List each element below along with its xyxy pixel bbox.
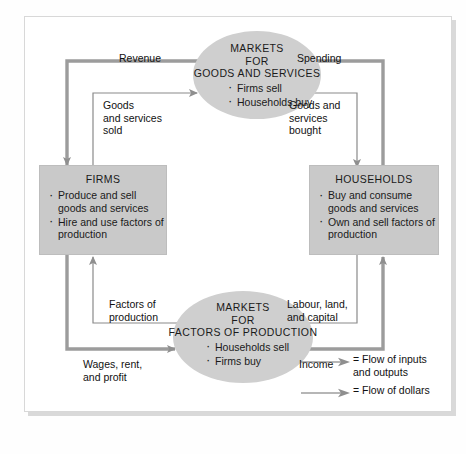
node-bullet: Own and sell factors of production (318, 216, 438, 241)
node-title-line: GOODS AND SERVICES (179, 67, 335, 80)
node-title-line: FACTORS OF PRODUCTION (151, 326, 335, 339)
node-firms: FIRMS Produce and sell goods and service… (39, 165, 167, 255)
flow-label-goods-and-services-bought: Goods and services bought (289, 99, 340, 137)
node-bullet: Firms sell (227, 82, 321, 95)
flow-label-wages-rent-and-profit: Wages, rent, and profit (83, 358, 142, 383)
flow-label-labour-land-and-capital: Labour, land, and capital (287, 298, 348, 323)
legend-label: = Flow of dollars (353, 384, 430, 397)
legend-label: = Flow of inputs and outputs (353, 353, 427, 378)
legend: = Flow of inputs and outputs = Flow of d… (301, 353, 451, 407)
arrow-right-icon (301, 384, 353, 401)
node-bullet: Produce and sell goods and services (48, 189, 166, 214)
node-bullet: Firms buy (205, 355, 313, 368)
screenshot-root: MARKETS FOR GOODS AND SERVICES Firms sel… (0, 0, 466, 454)
node-bullet-list: Households sell Firms buy (173, 341, 313, 368)
circular-flow-diagram: MARKETS FOR GOODS AND SERVICES Firms sel… (25, 17, 451, 411)
node-households: HOUSEHOLDS Buy and consume goods and ser… (309, 165, 439, 255)
flow-label-factors-of-production: Factors of production (109, 298, 158, 323)
flow-label-revenue: Revenue (119, 52, 161, 65)
arrow-right-icon-glyph (301, 388, 351, 398)
node-bullet-list: Buy and consume goods and services Own a… (310, 189, 438, 241)
flow-label-goods-and-services-sold: Goods and services sold (103, 99, 162, 137)
arrow-right-icon-glyph (301, 357, 351, 367)
legend-row: = Flow of inputs and outputs (301, 353, 451, 378)
node-bullet: Buy and consume goods and services (318, 189, 438, 214)
node-bullet: Households sell (205, 341, 313, 354)
legend-row: = Flow of dollars (301, 384, 451, 401)
diagram-card: MARKETS FOR GOODS AND SERVICES Firms sel… (24, 16, 452, 412)
flow-label-spending: Spending (297, 52, 341, 65)
node-bullet-list: Produce and sell goods and services Hire… (40, 189, 166, 241)
node-title: HOUSEHOLDS (310, 166, 438, 185)
node-bullet: Hire and use factors of production (48, 216, 166, 241)
arrow-right-icon (301, 353, 353, 370)
node-title: FIRMS (40, 166, 166, 185)
